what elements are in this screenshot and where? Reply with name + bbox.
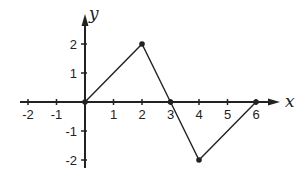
x-tick-label: -1 [51, 107, 63, 122]
y-axis-label: y [88, 3, 99, 23]
x-tick-label: 3 [167, 107, 174, 122]
y-tick-label: 2 [70, 37, 77, 52]
x-tick-label: 1 [110, 107, 117, 122]
data-point-marker [196, 157, 202, 163]
y-tick-label: -2 [65, 153, 77, 168]
x-tick-label: 5 [224, 107, 231, 122]
axis-labels: xy [88, 3, 295, 111]
x-axis-arrow-icon [268, 99, 280, 106]
y-axis-arrow-icon [82, 14, 89, 26]
data-point-marker [168, 99, 174, 105]
y-tick-label: 1 [70, 66, 77, 81]
x-axis-label: x [285, 91, 295, 111]
x-tick-label: 6 [252, 107, 259, 122]
data-point-marker [139, 41, 145, 47]
line-chart: -2-1123456-2-112 xy [0, 0, 301, 179]
x-tick-label: -2 [22, 107, 34, 122]
data-point-marker [82, 99, 88, 105]
y-tick-label: -1 [65, 124, 77, 139]
data-point-marker [253, 99, 259, 105]
x-tick-label: 2 [138, 107, 145, 122]
axes [20, 14, 280, 168]
x-tick-label: 4 [195, 107, 202, 122]
